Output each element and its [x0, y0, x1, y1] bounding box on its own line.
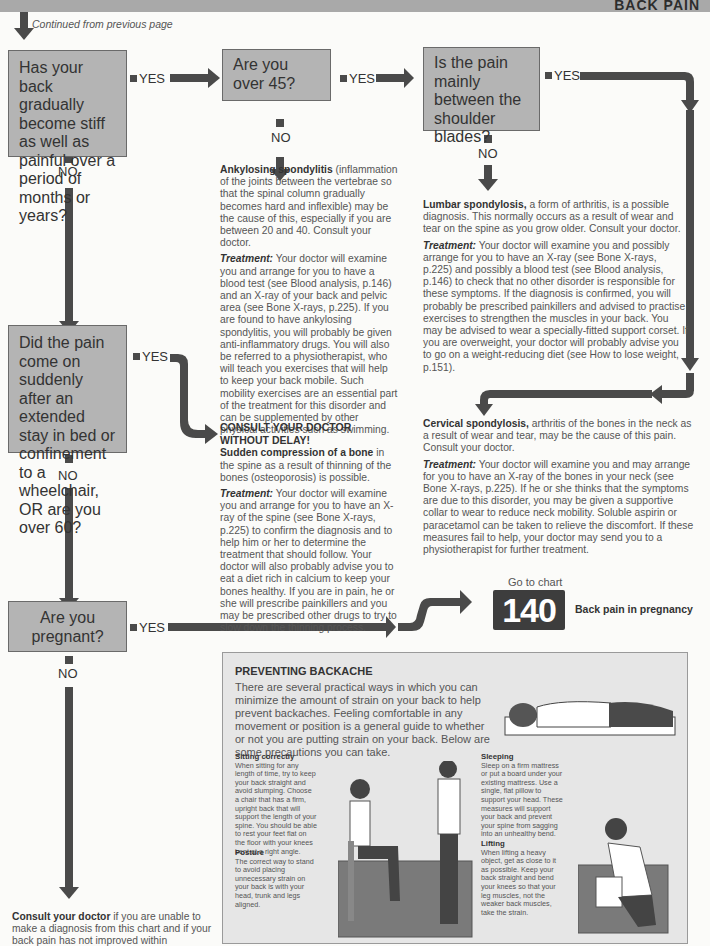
question-box-stiff-back: Has your back gradually become stiff as …	[8, 50, 127, 157]
posture-section: PostureThe correct way to stand to avoid…	[235, 849, 317, 909]
yes-label-q5: YES	[130, 620, 165, 635]
goto-chart-label: Go to chart	[508, 576, 562, 588]
question-box-shoulder-blades: Is the pain mainly between the shoulder …	[423, 47, 540, 131]
panel-intro: There are several practical ways in whic…	[235, 681, 490, 759]
sleeping-illustration	[501, 681, 677, 737]
panel-title: PREVENTING BACKACHE	[235, 665, 373, 677]
no-label-q5: NO	[58, 666, 78, 681]
sleeping-section: SleepingSleep on a firm mattress or put …	[481, 753, 563, 839]
no-label-q1: NO	[58, 164, 78, 179]
diagnosis-cervical-spondylosis: Cervical spondylosis, arthritis of the b…	[423, 418, 695, 560]
sitting-standing-illustration	[338, 761, 478, 939]
no-label-q2: NO	[271, 130, 291, 145]
footer-note: Consult your doctor if you are unable to…	[12, 911, 217, 946]
continued-note: Continued from previous page	[32, 18, 173, 30]
preventing-backache-panel: PREVENTING BACKACHE There are several pr…	[222, 652, 688, 944]
question-box-pregnant: Are you pregnant?	[8, 601, 127, 652]
chart-title-link[interactable]: Back pain in pregnancy	[575, 603, 693, 615]
diagnosis-lumbar-spondylosis: Lumbar spondylosis, a form of arthritis,…	[423, 199, 688, 378]
question-box-sudden-pain: Did the pain come on suddenly after an e…	[8, 325, 127, 453]
lifting-section: LiftingWhen lifting a heavy object, get …	[481, 840, 563, 917]
chart-number-link[interactable]: 140	[493, 590, 565, 630]
diagnosis-osteoporosis: CONSULT YOUR DOCTOR WITHOUT DELAY! Sudde…	[220, 421, 400, 638]
yes-label-q2: YES	[340, 71, 375, 86]
yes-label-q4: YES	[133, 349, 168, 364]
no-label-q4: NO	[58, 468, 78, 483]
diagnosis-ankylosing-spondylitis: Ankylosing spondylitis (inflammation of …	[220, 164, 398, 440]
lifting-illustration	[578, 815, 670, 935]
yes-label-q3: YES	[545, 68, 580, 83]
sitting-correctly-section: Sitting correctlyWhen sitting for any le…	[235, 753, 317, 856]
yes-label-q1: YES	[130, 71, 165, 86]
no-label-q3: NO	[478, 146, 498, 161]
question-box-over-45: Are you over 45?	[222, 49, 331, 101]
